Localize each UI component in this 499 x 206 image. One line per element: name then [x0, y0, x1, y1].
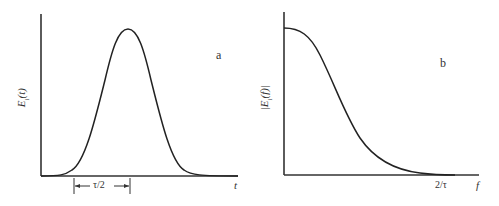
interval-label: τ/2 — [93, 179, 105, 190]
panel-b-ylabel-arg: (f)| — [258, 85, 270, 98]
panel-b-ylabel: |Ei(f)| — [258, 80, 273, 116]
panel-a-xlabel: t — [234, 179, 237, 191]
panel-b-xtick: 2/τ — [435, 179, 447, 190]
panel-b-axes — [284, 12, 479, 175]
panel-b-ylabel-pre: |E — [258, 100, 270, 110]
panel-a-gaussian-curve — [41, 29, 238, 176]
panel-b-xlabel: f — [476, 179, 479, 191]
panel-b-label: b — [440, 56, 446, 71]
panel-a-ylabel-main: E — [15, 100, 27, 107]
panel-a-ylabel: Ei(t) — [15, 83, 30, 113]
panel-a-ylabel-sub: i — [23, 98, 31, 100]
panel-b-ylabel-sub: i — [266, 98, 274, 100]
diagram-canvas — [0, 0, 499, 206]
panel-a-label: a — [216, 48, 221, 63]
panel-a-axes — [41, 14, 238, 176]
panel-b-spectrum-curve — [284, 28, 455, 175]
panel-a-ylabel-arg: (t) — [15, 88, 27, 98]
